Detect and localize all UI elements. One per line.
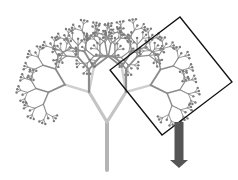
leaf-node: [68, 34, 70, 36]
leaf-node: [28, 50, 30, 52]
leaf-node: [70, 40, 72, 42]
leaf-node: [193, 74, 195, 76]
leaf-node: [119, 20, 121, 22]
leaf-node: [179, 71, 181, 73]
leaf-node: [25, 102, 27, 104]
leaf-node: [35, 70, 37, 72]
leaf-node: [173, 44, 175, 46]
leaf-node: [75, 53, 77, 55]
branch: [180, 82, 185, 90]
leaf-node: [150, 27, 152, 29]
leaf-node: [83, 19, 85, 21]
leaf-node: [194, 101, 196, 103]
leaf-node: [71, 27, 73, 29]
branch: [181, 108, 188, 110]
leaf-node: [192, 95, 194, 97]
leaf-node: [128, 19, 130, 21]
leaf-node: [119, 31, 121, 33]
leaf-node: [43, 41, 45, 43]
leaf-node: [53, 45, 55, 47]
leaf-node: [165, 43, 167, 45]
leaf-node: [119, 45, 121, 47]
leaf-node: [102, 30, 104, 32]
leaf-node: [151, 34, 153, 36]
leaf-node: [135, 18, 137, 20]
leaf-node: [15, 91, 17, 93]
leaf-node: [171, 41, 173, 43]
leaf-node: [75, 59, 77, 61]
branch: [188, 92, 195, 94]
leaf-node: [61, 62, 63, 64]
leaf-node: [194, 78, 196, 80]
leaf-node: [195, 81, 197, 83]
leaf-node: [157, 44, 159, 46]
leaf-node: [86, 33, 88, 35]
leaf-node: [146, 28, 148, 30]
leaf-node: [196, 87, 198, 89]
leaf-node: [189, 103, 191, 105]
leaf-node: [142, 31, 144, 33]
leaf-node: [107, 22, 109, 24]
leaf-node: [192, 69, 194, 71]
leaf-node: [124, 37, 126, 39]
branch: [151, 85, 167, 93]
leaf-node: [58, 54, 60, 56]
leaf-node: [188, 57, 190, 59]
leaf-node: [29, 117, 31, 119]
leaf-node: [190, 106, 192, 108]
leaf-node: [47, 117, 49, 119]
leaf-node: [191, 103, 193, 105]
leaf-node: [161, 59, 163, 61]
leaf-node: [153, 42, 155, 44]
leaf-node: [198, 90, 200, 92]
leaf-node: [148, 37, 150, 39]
leaf-node: [93, 44, 95, 46]
leaf-node: [65, 37, 67, 39]
leaf-node: [155, 54, 157, 56]
arrow-shaft: [175, 122, 184, 160]
leaf-node: [82, 66, 84, 68]
leaf-node: [54, 63, 56, 65]
leaf-node: [143, 29, 145, 31]
leaf-node: [56, 45, 58, 47]
leaf-node: [131, 18, 133, 20]
leaf-node: [19, 100, 21, 102]
leaf-node: [158, 118, 160, 120]
branch: [169, 115, 172, 121]
branch: [43, 65, 55, 69]
leaf-node: [163, 51, 165, 53]
branch: [44, 113, 47, 119]
leaf-node: [22, 101, 24, 103]
branch: [66, 56, 78, 57]
leaf-node: [186, 117, 188, 119]
leaf-node: [71, 32, 73, 34]
leaf-node: [16, 88, 18, 90]
leaf-node: [75, 46, 77, 48]
leaf-node: [92, 32, 94, 34]
leaf-node: [145, 33, 147, 35]
branch: [35, 65, 44, 69]
leaf-node: [56, 114, 58, 116]
leaf-node: [168, 124, 170, 126]
leaf-node: [51, 36, 53, 38]
leaf-node: [172, 47, 174, 49]
leaf-node: [53, 120, 55, 122]
leaf-node: [122, 20, 124, 22]
leaf-node: [160, 47, 162, 49]
leaf-node: [26, 56, 28, 58]
leaf-node: [29, 109, 31, 111]
leaf-node: [164, 36, 166, 38]
leaf-node: [80, 19, 82, 21]
leaf-node: [23, 104, 25, 106]
leaf-node: [83, 32, 85, 34]
leaf-node: [180, 52, 182, 54]
leaf-node: [92, 21, 94, 23]
leaf-node: [26, 76, 28, 78]
leaf-node: [28, 70, 30, 72]
leaf-node: [82, 72, 84, 74]
leaf-node: [191, 66, 193, 68]
leaf-node: [116, 21, 118, 23]
leaf-node: [38, 120, 40, 122]
leaf-node: [94, 65, 96, 67]
leaf-node: [75, 63, 77, 65]
